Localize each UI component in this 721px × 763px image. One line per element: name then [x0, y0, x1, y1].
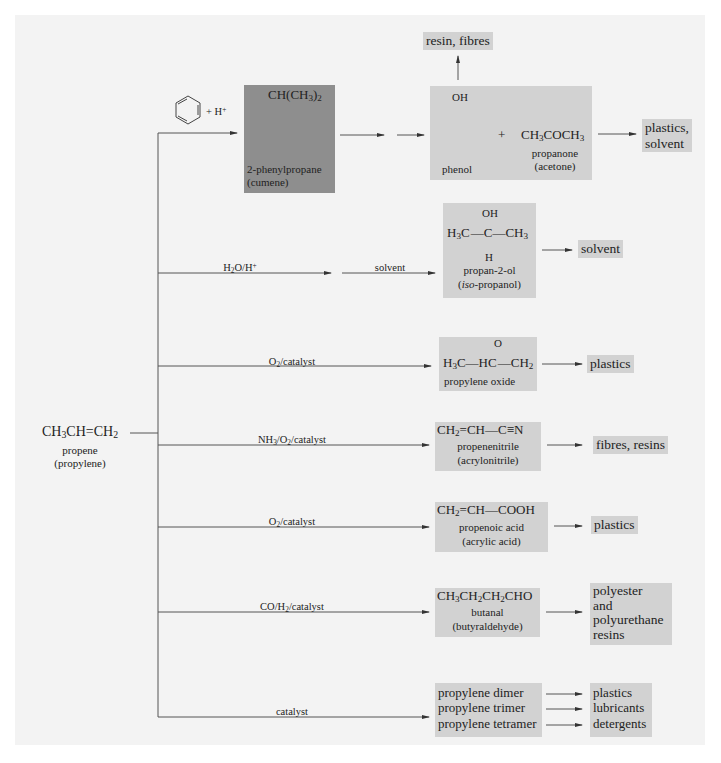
reagent-h-plus: + H+: [206, 106, 226, 118]
acrylic-acid-name: propenoic acid: [435, 521, 548, 533]
use-polyester-resins: polyester and polyurethane resins: [590, 583, 672, 645]
propene-name: propene: [30, 444, 130, 456]
use-plastics-3: plastics: [591, 516, 638, 534]
acetone-alt-name: (acetone): [520, 160, 590, 172]
condition-co-h2-catalyst: CO/H2/catalyst: [260, 601, 324, 612]
phenol-name: phenol: [442, 163, 472, 175]
propylene-dimer: propylene dimer: [438, 686, 524, 700]
plus-sign: +: [498, 128, 505, 142]
condition-o2-catalyst-1: O2/catalyst: [269, 356, 315, 367]
use-plastics-4: plastics: [593, 686, 632, 700]
isopropanol-name: propan-2-ol: [443, 264, 536, 276]
epoxide-oxygen: O: [494, 337, 502, 349]
use-resin-fibres: resin, fibres: [423, 32, 493, 50]
butanal-formula: CH3CH2CH2CHO: [437, 589, 532, 603]
propene-alt-name: (propylene): [30, 457, 130, 469]
isopropanol-backbone: H3C —C—CH3: [447, 226, 528, 240]
isopropanol-alt-name: (iso-propanol): [443, 278, 536, 290]
acrylic-acid-alt-name: (acrylic acid): [435, 535, 548, 547]
condition-o2-catalyst-2: O2/catalyst: [269, 516, 315, 527]
acetone-name: propanone: [520, 147, 590, 159]
propylene-tetramer: propylene tetramer: [438, 717, 537, 731]
propene-formula: CH3CH=CH2: [30, 424, 130, 439]
cumene-alt-name: (cumene): [247, 176, 289, 188]
use-lubricants: lubricants: [593, 701, 644, 715]
isopropanol-oh: OH: [482, 207, 498, 219]
acrylonitrile-alt-name: (acrylonitrile): [435, 454, 541, 466]
cumene-substituent: CH(CH3)2: [268, 88, 322, 102]
acrylonitrile-name: propenenitrile: [435, 440, 541, 452]
condition-solvent: solvent: [375, 262, 405, 273]
condition-catalyst: catalyst: [276, 706, 308, 717]
propylene-oxide-formula: H3C—HC —CH2: [443, 356, 533, 370]
isopropanol-h: H: [485, 251, 493, 263]
butanal-name: butanal: [435, 606, 540, 618]
propylene-oxide-name: propylene oxide: [444, 375, 515, 387]
use-solvent: solvent: [578, 240, 623, 258]
connector-lines: [0, 0, 721, 763]
use-plastics-2: plastics: [587, 355, 634, 373]
acrylic-acid-formula: CH2=CH—COOH: [437, 503, 535, 517]
use-detergents: detergents: [593, 717, 646, 731]
condition-nh3-o2-catalyst: NH3/O2/catalyst: [258, 434, 326, 445]
butanal-alt-name: (butyraldehyde): [435, 620, 540, 632]
cumene-name: 2-phenylpropane: [247, 163, 322, 175]
acrylonitrile-formula: CH2=CH—C≡N: [437, 423, 523, 437]
condition-h2o-h-plus: H2O/H+: [223, 262, 257, 273]
benzene-ring-icon: [176, 96, 200, 124]
phenol-oh: OH: [452, 91, 468, 103]
acetone-formula: CH3COCH3: [521, 128, 584, 142]
use-fibres-resins: fibres, resins: [593, 436, 668, 454]
propylene-trimer: propylene trimer: [438, 701, 525, 715]
use-plastics-solvent: plastics, solvent: [642, 119, 692, 152]
